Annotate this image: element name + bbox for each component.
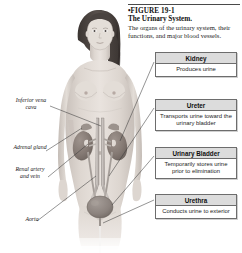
caption-rule	[128, 4, 240, 5]
figure-description: The organs of the urinary system, their …	[128, 24, 240, 40]
torso	[65, 60, 134, 210]
urinary-system-figure: •FIGURE 19-1 The Urinary System. The org…	[0, 0, 242, 253]
callout-urethra[interactable]: Urethra Conducts urine to exterior	[155, 194, 237, 219]
callout-kidney-header: Kidney	[156, 53, 236, 64]
callout-ureter-body: Transports urine toward the urinary blad…	[156, 111, 236, 130]
callout-ureter-header: Ureter	[156, 100, 236, 111]
callout-kidney-body: Produces urine	[156, 64, 236, 76]
callout-urethra-header: Urethra	[156, 195, 236, 206]
callout-urinary-bladder-header: Urinary Bladder	[156, 148, 236, 159]
label-inferior-vena-cava: Inferior vena cava	[14, 97, 48, 110]
callout-urinary-bladder-body: Temporarily stores urine prior to elimin…	[156, 159, 236, 178]
label-adrenal-gland: Adrenal gland	[12, 144, 48, 151]
callout-urethra-body: Conducts urine to exterior	[156, 206, 236, 218]
figure-caption: •FIGURE 19-1 The Urinary System. The org…	[128, 4, 240, 40]
label-renal-artery-and-vein: Renal artery and vein	[12, 166, 48, 179]
urinary-bladder	[87, 196, 113, 218]
label-aorta: Aorta	[18, 216, 46, 223]
callout-urinary-bladder[interactable]: Urinary Bladder Temporarily stores urine…	[155, 147, 237, 179]
figure-number: •FIGURE 19-1	[128, 7, 240, 15]
figure-title: The Urinary System.	[128, 15, 240, 23]
callout-ureter[interactable]: Ureter Transports urine toward the urina…	[155, 99, 237, 131]
callout-kidney[interactable]: Kidney Produces urine	[155, 52, 237, 77]
